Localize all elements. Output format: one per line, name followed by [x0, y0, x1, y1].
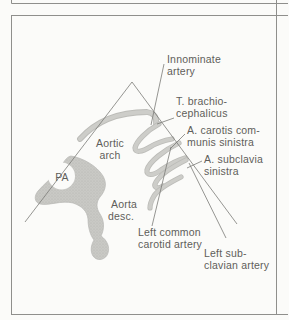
- brachiocephalicus-label-line1: T. brachio-: [176, 95, 228, 107]
- carotis-sinistra-label-line2: munis sinistra: [187, 136, 254, 148]
- subclavia-sinistra-label-line2: sinistra: [204, 165, 239, 177]
- scanned-page: Innominate artery T. brachio- cephalicus…: [0, 0, 288, 320]
- left-subclavian-label-line1: Left sub-: [204, 247, 247, 259]
- subclavia-sinistra-label-line1: A. subclavia: [204, 153, 263, 165]
- innominate-artery-label-line2: artery: [167, 65, 196, 77]
- left-subclavian-label-line2: clavian artery: [204, 259, 270, 271]
- aorta-desc-label-line1: Aorta: [111, 198, 137, 210]
- aortic-arch-label-line2: arch: [99, 149, 120, 161]
- frame-corner-bleed: [277, 0, 289, 16]
- brachiocephalicus-label-line2: cephalicus: [176, 107, 228, 119]
- aorta-desc-label-line2: desc.: [108, 210, 134, 222]
- left-common-carotid-label-line2: carotid artery: [138, 238, 203, 250]
- aortic-arch-label-line1: Aortic: [96, 137, 124, 149]
- previous-figure-frame-edge: [12, 0, 289, 4]
- carotis-sinistra-label-line1: A. carotis com-: [187, 124, 260, 136]
- aortic-arch-diagram: Innominate artery T. brachio- cephalicus…: [0, 0, 288, 320]
- left-common-carotid-label-line1: Left common: [138, 226, 201, 238]
- pulmonary-artery-label: PA: [55, 171, 69, 183]
- innominate-artery-label-line1: Innominate: [167, 53, 221, 65]
